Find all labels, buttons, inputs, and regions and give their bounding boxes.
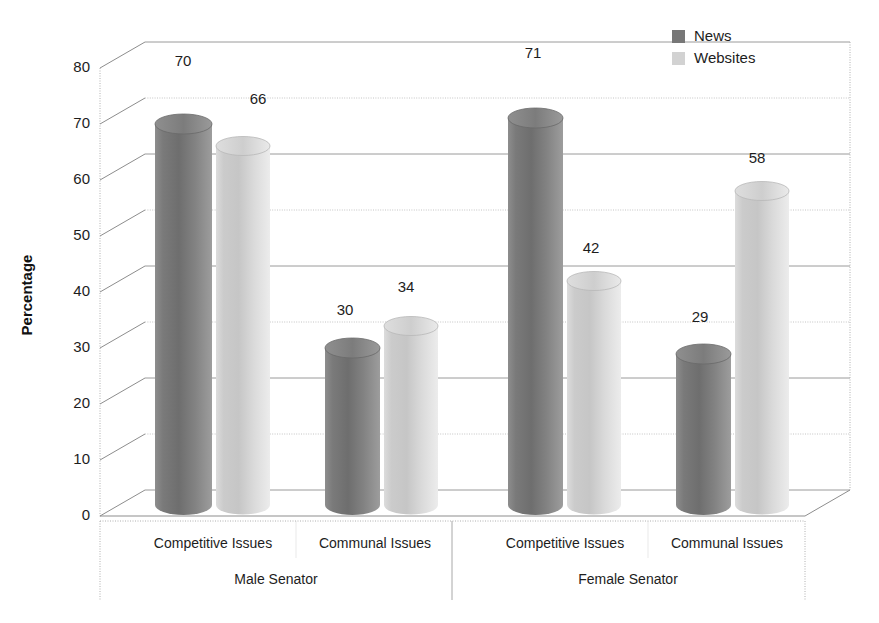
- axis-connector-40: [100, 266, 145, 292]
- y-tick-label: 0: [82, 506, 90, 523]
- legend-label-websites: Websites: [694, 49, 755, 66]
- axis-connector-70: [100, 98, 145, 124]
- axis-connector-20: [100, 378, 145, 404]
- legend-swatch-news: [672, 30, 685, 43]
- bar-male-communal-websites[interactable]: [384, 317, 438, 515]
- axis-connector-80: [100, 42, 145, 68]
- y-axis-wall: [100, 42, 145, 518]
- value-label: 34: [398, 278, 415, 295]
- legend: News Websites: [672, 27, 755, 66]
- value-label: 58: [749, 149, 766, 166]
- y-tick-label: 50: [73, 226, 90, 243]
- floor-right-edge: [805, 490, 850, 516]
- chart-container: 80 70 60 50 40 30 20 10 0 Percentage: [0, 0, 879, 623]
- bar-female-competitive-websites[interactable]: [567, 272, 621, 515]
- value-label: 71: [525, 44, 542, 61]
- category-label: Competitive Issues: [506, 535, 624, 551]
- axis-connector-60: [100, 154, 145, 180]
- y-tick-label: 80: [73, 58, 90, 75]
- y-tick-label: 40: [73, 282, 90, 299]
- axis-connector-10: [100, 434, 145, 460]
- y-tick-label: 70: [73, 114, 90, 131]
- legend-swatch-websites: [672, 52, 685, 65]
- y-tick-label: 20: [73, 394, 90, 411]
- category-label: Communal Issues: [671, 535, 783, 551]
- bar-female-competitive-news[interactable]: [508, 108, 563, 515]
- value-label: 70: [175, 52, 192, 69]
- value-label: 29: [692, 308, 709, 325]
- x-axis-label-band: Competitive Issues Communal Issues Compe…: [100, 521, 805, 600]
- value-label: 42: [583, 239, 600, 256]
- bar-male-communal-news[interactable]: [325, 338, 380, 515]
- legend-label-news: News: [694, 27, 732, 44]
- category-label: Competitive Issues: [154, 535, 272, 551]
- bar-male-competitive-websites[interactable]: [216, 137, 270, 515]
- group-label: Female Senator: [578, 571, 678, 587]
- y-tick-label: 10: [73, 450, 90, 467]
- bar-female-communal-websites[interactable]: [735, 182, 789, 515]
- value-label: 66: [250, 90, 267, 107]
- axis-connector-50: [100, 210, 145, 236]
- category-label: Communal Issues: [319, 535, 431, 551]
- y-axis-title: Percentage: [18, 255, 35, 336]
- axis-connector-0: [100, 490, 145, 516]
- y-tick-label: 30: [73, 338, 90, 355]
- y-tick-label: 60: [73, 170, 90, 187]
- bar-female-communal-news[interactable]: [676, 344, 731, 515]
- y-axis-ticks: 80 70 60 50 40 30 20 10 0: [73, 58, 90, 523]
- bar-chart: 80 70 60 50 40 30 20 10 0 Percentage: [0, 0, 879, 623]
- axis-connector-30: [100, 322, 145, 348]
- value-label: 30: [337, 301, 354, 318]
- group-label: Male Senator: [234, 571, 318, 587]
- bar-male-competitive-news[interactable]: [155, 114, 212, 515]
